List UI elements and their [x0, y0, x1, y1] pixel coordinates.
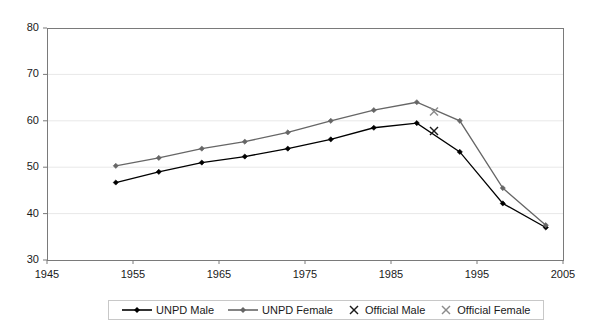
legend-x-icon [347, 304, 361, 316]
legend-entry-unpd-male[interactable]: UNPD Male [115, 304, 221, 316]
y-tick-label: 60 [0, 114, 39, 126]
legend-x-icon [439, 304, 453, 316]
legend-label: UNPD Female [262, 304, 333, 316]
data-point-marker [430, 127, 438, 135]
legend-label: UNPD Male [156, 304, 214, 316]
legend-entry-unpd-female[interactable]: UNPD Female [221, 304, 340, 316]
x-tick-label: 1945 [22, 268, 72, 280]
x-tick-label: 1965 [194, 268, 244, 280]
data-point-marker [285, 130, 290, 135]
data-point-marker [328, 118, 333, 123]
x-tick-label: 1975 [280, 268, 330, 280]
legend-entry-official-male[interactable]: Official Male [340, 304, 432, 316]
y-tick-label: 40 [0, 207, 39, 219]
x-tick-label: 1995 [452, 268, 502, 280]
data-point-marker [328, 137, 333, 142]
data-point-marker [156, 169, 161, 174]
y-tick-label: 80 [0, 21, 39, 33]
data-point-marker [199, 146, 204, 151]
data-point-marker [199, 160, 204, 165]
x-tick-label: 2005 [538, 268, 588, 280]
x-tick-label: 1985 [366, 268, 416, 280]
data-point-marker [285, 146, 290, 151]
legend-label: Official Female [457, 304, 530, 316]
data-point-marker [242, 139, 247, 144]
chart-legend: UNPD MaleUNPD FemaleOfficial MaleOfficia… [108, 300, 544, 320]
y-tick-label: 30 [0, 253, 39, 265]
data-point-marker [371, 125, 376, 130]
data-point-marker [414, 100, 419, 105]
legend-label: Official Male [365, 304, 425, 316]
y-tick-label: 70 [0, 67, 39, 79]
data-point-marker [156, 155, 161, 160]
legend-line-icon [228, 304, 258, 316]
data-point-marker [113, 180, 118, 185]
y-tick-label: 50 [0, 160, 39, 172]
legend-entry-official-female[interactable]: Official Female [432, 304, 537, 316]
x-tick-label: 1955 [108, 268, 158, 280]
data-point-marker [371, 108, 376, 113]
legend-line-icon [122, 304, 152, 316]
plot-area [0, 0, 601, 334]
data-point-marker [242, 154, 247, 159]
chart-container: 304050607080 194519551965197519851995200… [0, 0, 601, 334]
